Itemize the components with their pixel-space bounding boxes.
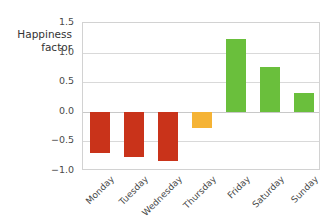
x-axis-tick-label: Thursday [181, 174, 218, 211]
x-axis-tick-label: Tuesday [117, 174, 150, 207]
x-axis-tick-label: Saturday [250, 174, 286, 210]
x-axis-tick-label: Monday [84, 174, 116, 206]
y-axis-tick-label: 0.0 [42, 106, 74, 116]
bars-layer [83, 23, 319, 169]
bar-monday [90, 112, 109, 153]
x-axis-tick-label: Friday [226, 174, 252, 200]
plot-area [82, 22, 320, 170]
y-axis-tick-label: 1.5 [42, 17, 74, 27]
bar-thursday [192, 112, 211, 128]
y-axis-tick-label: 1.0 [42, 47, 74, 57]
happiness-factor-bar-chart: Happiness factor 1.51.00.50.0−0.5−1.0 Mo… [0, 0, 323, 217]
y-axis-tick-label: −1.0 [42, 165, 74, 175]
y-axis-tick-label: 0.5 [42, 76, 74, 86]
bar-tuesday [124, 112, 143, 157]
x-axis-tick-label: Sunday [289, 174, 320, 205]
bar-saturday [260, 67, 279, 112]
bar-sunday [294, 93, 313, 111]
y-axis-tick-label: −0.5 [42, 135, 74, 145]
bar-wednesday [158, 112, 177, 161]
bar-friday [226, 39, 245, 112]
